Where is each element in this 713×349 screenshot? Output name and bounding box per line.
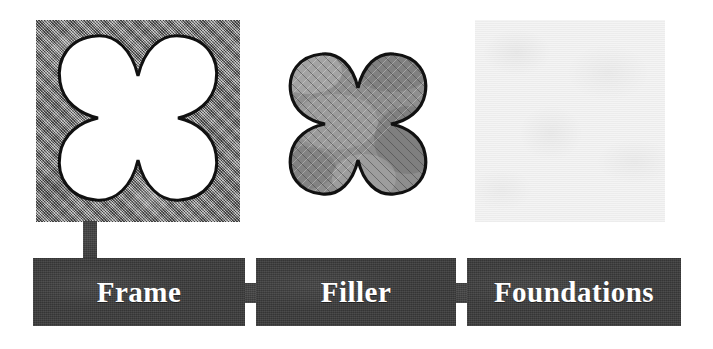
filler-bar[interactable]: Filler [256, 258, 456, 326]
foundations-panel [475, 20, 665, 222]
filler-bar-label: Filler [321, 278, 392, 307]
quatrefoil-solid-icon [272, 44, 444, 196]
filler-panel [272, 44, 444, 196]
foundations-bar-label: Foundations [494, 278, 654, 307]
diagram-canvas: Frame Filler Foundations [0, 0, 713, 349]
frame-bar-label: Frame [97, 278, 182, 307]
quatrefoil-cutout-icon [36, 20, 240, 222]
foundations-bar[interactable]: Foundations [467, 258, 681, 326]
frame-panel [36, 20, 240, 222]
frame-bar[interactable]: Frame [33, 258, 245, 326]
connector-stem-frame [83, 221, 97, 261]
